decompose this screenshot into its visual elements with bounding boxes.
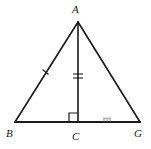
right-angle-marker-c	[69, 113, 78, 122]
vertex-label-c: C	[72, 131, 79, 142]
vertex-label-g: G	[134, 128, 142, 139]
geometry-figure: A B C G	[0, 0, 151, 149]
vertex-label-a: A	[72, 4, 79, 15]
hatch-marks-cg	[103, 118, 111, 122]
segment-ab	[15, 22, 78, 122]
triangle-diagram-svg	[0, 0, 151, 149]
vertex-label-b: B	[6, 128, 13, 139]
segment-ag	[78, 22, 140, 122]
